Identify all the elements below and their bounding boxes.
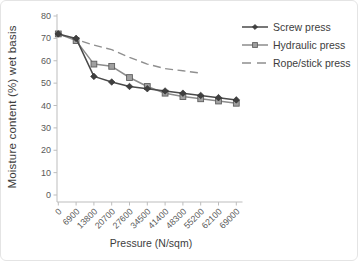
marker-screw-press [108, 79, 115, 86]
y-tick-label: 60 [41, 56, 51, 66]
legend-marker-screw-press [252, 24, 257, 29]
y-tick-label: 50 [41, 78, 51, 88]
y-tick-label: 70 [41, 33, 51, 43]
legend: Screw press Hydraulic press Rope/stick p… [242, 20, 351, 70]
hydraulic-press-line-sample-icon [242, 39, 268, 51]
y-axis-title: Moisture content (%) wet basis [6, 25, 18, 188]
legend-label-screw-press: Screw press [273, 21, 331, 33]
series-line-hydraulic-press [58, 34, 236, 103]
marker-hydraulic-press [109, 63, 115, 69]
rope-stick-press-line-sample-icon [242, 57, 268, 69]
legend-label-hydraulic-press: Hydraulic press [273, 39, 345, 51]
legend-marker-hydraulic-press [253, 43, 258, 48]
y-tick-label: 40 [41, 101, 51, 111]
legend-item-hydraulic-press: Hydraulic press [242, 38, 351, 52]
series-line-rope-stick-press [58, 34, 200, 73]
marker-hydraulic-press [91, 61, 97, 67]
x-tick-label: 69000 [217, 206, 241, 230]
legend-item-screw-press: Screw press [242, 20, 351, 34]
marker-screw-press [126, 83, 133, 90]
legend-label-rope-stick-press: Rope/stick press [273, 57, 351, 69]
y-tick-label: 30 [41, 123, 51, 133]
y-tick-label: 10 [41, 168, 51, 178]
legend-item-rope-stick-press: Rope/stick press [242, 56, 351, 70]
y-tick-label: 20 [41, 145, 51, 155]
y-tick-label: 0 [46, 190, 51, 200]
x-axis-title: Pressure (N/sqm) [110, 237, 192, 249]
marker-hydraulic-press [127, 75, 133, 81]
screw-press-line-sample-icon [242, 21, 268, 33]
marker-screw-press [91, 73, 98, 80]
x-tick-label: 0 [53, 206, 64, 217]
y-tick-label: 80 [41, 11, 51, 21]
chart-figure: 0102030405060708006900138002070027600345… [0, 0, 358, 261]
